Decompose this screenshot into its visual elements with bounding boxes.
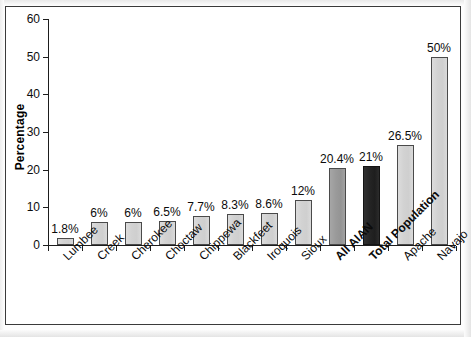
- y-axis-tick-label: 30: [6, 126, 40, 138]
- bar-value-label: 12%: [273, 185, 333, 197]
- bar-value-label: 26.5%: [375, 130, 435, 142]
- y-axis-tick-label: 0: [6, 239, 40, 251]
- x-axis-tick: [48, 246, 49, 251]
- scan-edge-left: [0, 0, 4, 337]
- scan-edge-bottom: [0, 330, 471, 337]
- bar-value-label: 8.6%: [239, 198, 299, 210]
- y-axis-tick: [43, 207, 48, 208]
- y-axis-tick: [43, 94, 48, 95]
- y-axis-tick: [43, 57, 48, 58]
- y-axis-tick-label: 10: [6, 201, 40, 213]
- bar-value-label: 21%: [341, 151, 401, 163]
- y-axis-tick: [43, 170, 48, 171]
- plot-area: Percentage 0102030405060 1.8%6%6%6.5%7.7…: [6, 7, 462, 326]
- y-axis-line: [48, 19, 49, 246]
- scan-edge-top: [0, 0, 471, 5]
- bar-navajo[interactable]: [431, 57, 448, 245]
- bar-value-label: 50%: [409, 42, 469, 54]
- y-axis-tick-label: 60: [6, 13, 40, 25]
- chart-frame: Percentage 0102030405060 1.8%6%6%6.5%7.7…: [5, 6, 461, 325]
- y-axis-tick: [43, 132, 48, 133]
- y-axis-tick-label: 50: [6, 51, 40, 63]
- bar-all-aian[interactable]: [329, 168, 346, 245]
- y-axis-tick-label: 20: [6, 164, 40, 176]
- y-axis-tick-label: 40: [6, 88, 40, 100]
- figure-canvas: Percentage 0102030405060 1.8%6%6%6.5%7.7…: [0, 0, 471, 337]
- y-axis-tick: [43, 19, 48, 20]
